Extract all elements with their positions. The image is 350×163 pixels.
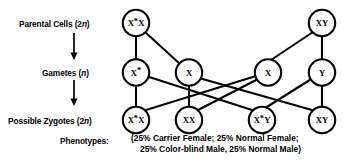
node-p-male-label: XY xyxy=(316,18,329,28)
phenotypes-line-1: (25% Carrier Female; 25% Normal Female; xyxy=(131,133,301,143)
row-label-parental-tail: ) xyxy=(87,19,90,29)
phenotypes-label: Phenotypes: xyxy=(60,136,109,146)
node-g-x2-label: X xyxy=(265,68,272,78)
phenotypes-line-2: 25% Color-blind Male, 25% Normal Male) xyxy=(140,144,301,154)
node-z-normal-male-label: XY xyxy=(316,115,329,125)
connectors-gametes-to-zygotes xyxy=(136,76,322,110)
node-g-x1: X xyxy=(176,59,202,85)
node-z-normal-male: XY xyxy=(309,107,335,133)
genetics-cross-diagram: X*X XY X* X X Y X* xyxy=(0,0,350,163)
row-label-zygotes-tail: ) xyxy=(89,116,92,126)
node-g-y: Y xyxy=(309,59,335,85)
node-g-x2: X xyxy=(255,59,281,85)
row-label-parental-cells: Parental Cells (2n) xyxy=(19,19,90,29)
connectors-parental-to-gametes xyxy=(136,32,322,64)
node-p-female: X*X xyxy=(123,10,149,36)
stage-arrow-gametes-to-zygotes xyxy=(70,80,77,106)
row-label-possible-zygotes: Possible Zygotes (2n) xyxy=(8,116,92,126)
node-g-xstar: X* xyxy=(123,59,149,85)
row-label-gametes-tail: ) xyxy=(86,68,89,78)
phenotypes-text-block: (25% Carrier Female; 25% Normal Female; … xyxy=(131,133,301,154)
node-p-male: XY xyxy=(309,10,335,36)
node-g-x1-label: X xyxy=(186,68,193,78)
row-label-zygotes-text: Possible Zygotes (2 xyxy=(8,116,84,126)
row-label-gametes: Gametes (n) xyxy=(42,68,89,78)
node-z-normal-female: XX xyxy=(176,107,202,133)
edge-gx1-to-znormalmale xyxy=(199,78,312,110)
node-z-normal-female-label: XX xyxy=(183,115,196,125)
node-g-y-label: Y xyxy=(319,68,326,78)
edge-pfemale-to-gx1 xyxy=(145,32,180,64)
row-label-parental-text: Parental Cells (2 xyxy=(19,19,82,29)
node-z-colorblind-male: X*Y xyxy=(249,107,275,133)
node-z-carrier-female: X*X xyxy=(123,107,149,133)
row-label-gametes-text: Gametes ( xyxy=(42,68,81,78)
stage-arrow-parental-to-gametes xyxy=(70,33,77,60)
